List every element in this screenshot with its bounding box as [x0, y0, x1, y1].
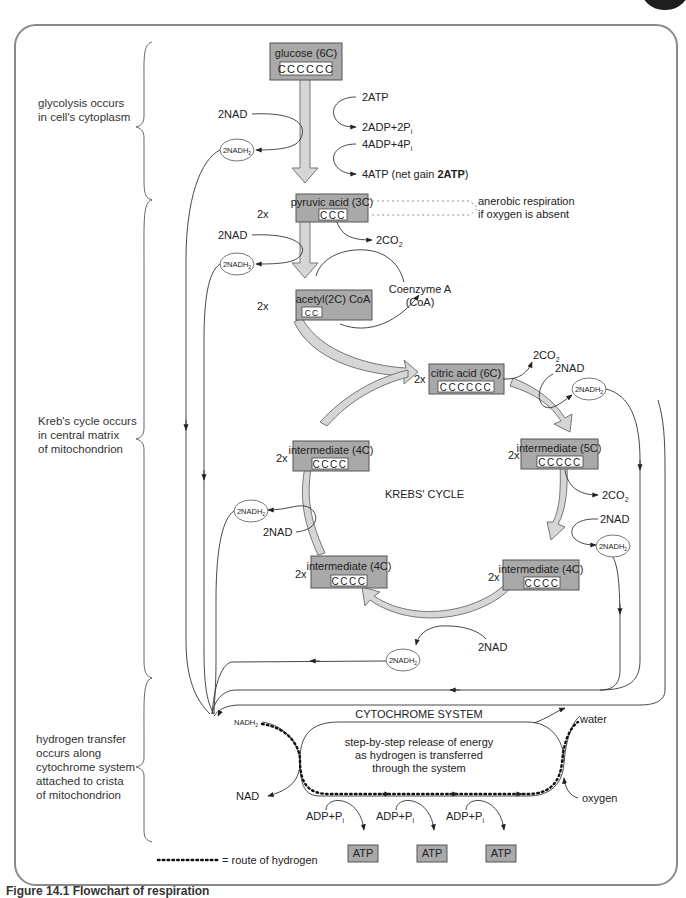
co2-label-2: 2CO2	[533, 349, 560, 363]
water-label: water	[579, 713, 607, 725]
int4c-right-carbons: CCCC	[525, 578, 560, 589]
acetyl-carbons: CC	[305, 308, 319, 318]
atp-box-1: ATP	[353, 847, 374, 859]
atp-synthesis: ADP+Pi ADP+Pi ADP+Pi ATP ATP ATP	[306, 800, 516, 862]
co2-label-3: 2CO2	[602, 489, 629, 503]
citric-side-arrows: 2CO2 2NAD 2NADH2	[503, 349, 606, 408]
region-braces	[136, 42, 152, 842]
adp-output-label: 2ADP+2Pi	[362, 121, 413, 135]
int4c-left-label: intermediate (4C)	[289, 444, 374, 456]
int4c-left-mult: 2x	[276, 452, 288, 464]
cytochrome-title: CYTOCHROME SYSTEM	[355, 708, 483, 720]
int4c-right-label: intermediate (4C)	[499, 563, 584, 575]
figure-caption: Figure 14.1 Flowchart of respiration	[6, 884, 209, 898]
acetyl-coa-box: 2x acetyl(2C) CoA CC	[257, 290, 372, 320]
intermediate-4c-bottom-box: 2x intermediate (4C) CCCC	[295, 556, 391, 588]
citric-acid-box: 2x citric acid (6C) CCCCCC	[414, 364, 504, 394]
legend-text: = route of hydrogen	[222, 854, 318, 866]
coenzyme-label-1: Coenzyme A	[389, 283, 452, 295]
int4c-bottom-carbons: CCCC	[332, 576, 367, 587]
atp-input-label: 2ATP	[362, 91, 389, 103]
int5c-side-arrows: 2CO2 2NAD 2NADH2	[565, 470, 630, 557]
citric-mult: 2x	[414, 373, 426, 385]
int4c-bottom-mult: 2x	[295, 568, 307, 580]
nad-label-4: 2NAD	[600, 513, 629, 525]
nad-label-2: 2NAD	[218, 229, 247, 241]
nad-label-6: 2NAD	[478, 641, 507, 653]
bottom-nad-arrows: 2NAD 2NADH2	[386, 626, 507, 671]
pyruvic-mult: 2x	[257, 208, 269, 220]
glycolysis-arrows: 2ATP 2ADP+2Pi 4ADP+4Pi 4ATP (net gain 2A…	[218, 91, 468, 180]
nad-label-5: 2NAD	[263, 526, 292, 538]
oxygen-label: oxygen	[582, 792, 617, 804]
atp-output-label: 4ATP (net gain 2ATP)	[362, 168, 468, 180]
krebs-cycle-title: KREBS' CYCLE	[385, 488, 464, 500]
intermediate-4c-left-box: 2x intermediate (4C) CCCC	[276, 441, 373, 471]
atp-box-3: ATP	[491, 847, 512, 859]
cyto-desc-1: step-by-step release of energy	[345, 736, 494, 748]
nadh2-label-5: 2NADH2	[237, 507, 265, 517]
acetyl-label: acetyl(2C) CoA	[296, 293, 371, 305]
co2-label-1: 2CO2	[376, 234, 403, 248]
glucose-box: glucose (6C) CCCCCC	[270, 43, 342, 80]
nadh2-label-2: 2NADH2	[223, 260, 251, 270]
nadh2-label-3: 2NADH2	[575, 385, 603, 395]
nad-output-label: NAD	[236, 790, 259, 802]
pyruvic-carbons: CCC	[320, 210, 346, 221]
atp-box-2: ATP	[422, 847, 443, 859]
nadh2-label-6: 2NADH2	[389, 656, 417, 666]
anaerobic-text-1: anerobic respiration	[478, 195, 575, 207]
adp-p-label-3: ADP+Pi	[446, 810, 484, 824]
citric-label: citric acid (6C)	[431, 367, 501, 379]
adp-input-label: 4ADP+4Pi	[362, 138, 413, 152]
intermediate-4c-right-box: 2x intermediate (4C) CCCC	[488, 560, 583, 590]
citric-carbons: CCCCCC	[440, 382, 492, 393]
nad-label-3: 2NAD	[555, 362, 584, 374]
nadh2-label-1: 2NADH2	[223, 146, 251, 156]
coenzyme-label-2: (CoA)	[406, 296, 435, 308]
glucose-carbons: CCCCCC	[278, 63, 335, 75]
intermediate-5c-box: 2x intermediate (5C) CCCCC	[508, 439, 601, 469]
glucose-label: glucose (6C)	[275, 47, 337, 59]
anaerobic-branch: anerobic respiration if oxygen is absent	[372, 195, 575, 220]
pyruvic-label: pyruvic acid (3C)	[291, 196, 374, 208]
adp-p-label-1: ADP+Pi	[306, 810, 344, 824]
int5c-label: intermediate (5C)	[517, 442, 602, 454]
nadh2-small-label: NADH2	[234, 718, 258, 728]
cyto-desc-3: through the system	[372, 762, 466, 774]
cytochrome-system: CYTOCHROME SYSTEM step-by-step release o…	[234, 708, 617, 804]
int4c-bottom-label: intermediate (4C)	[307, 560, 392, 572]
respiration-flowchart: glucose (6C) CCCCCC 2ATP 2ADP+2Pi 4ADP+4…	[0, 0, 686, 898]
int5c-carbons: CCCCC	[538, 457, 582, 468]
int4c-left-side-arrows: 2NAD 2NADH2	[234, 500, 316, 538]
adp-p-label-2: ADP+Pi	[376, 810, 414, 824]
int4c-left-carbons: CCCC	[313, 459, 348, 470]
pyruvic-box: 2x pyruvic acid (3C) CCC	[257, 194, 373, 222]
nadh2-label-4: 2NADH2	[599, 542, 627, 552]
legend: = route of hydrogen	[158, 854, 318, 866]
acetyl-mult: 2x	[257, 300, 269, 312]
anaerobic-text-2: if oxygen is absent	[478, 208, 569, 220]
cyto-desc-2: as hydrogen is transferred	[355, 749, 483, 761]
nad-label-1: 2NAD	[218, 108, 247, 120]
main-flow-arrows	[292, 79, 318, 278]
